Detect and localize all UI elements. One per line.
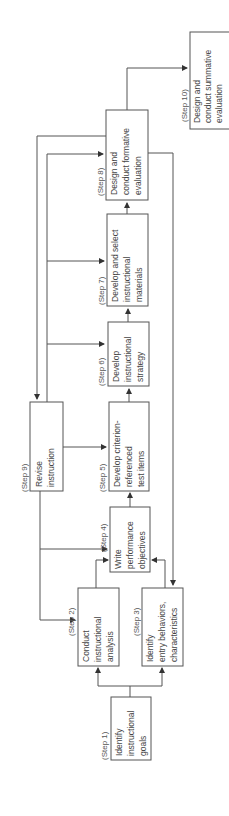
step-7-line-3: materials [134, 268, 144, 302]
step-8-line-1: Design and [109, 152, 119, 195]
step-1-line-1: Identify [114, 728, 124, 756]
step-1-line-2: instructional [126, 711, 136, 756]
step-4-line-2: performance [125, 521, 135, 569]
step-8-line-3: evaluation [133, 156, 143, 195]
step-2-label: (Step 2) [67, 607, 76, 636]
step-1-node: (Step 1) Identify instructional goals [100, 697, 151, 760]
step-6-label: (Step 6) [97, 357, 106, 386]
step-7-label: (Step 7) [97, 276, 106, 305]
step-5-line-3: test items [136, 451, 146, 487]
step-6-node: (Step 6) Develop instructional strategy [97, 322, 149, 386]
step-7-line-1: Develop and select [110, 229, 120, 302]
step-5-line-1: Develop criterion- [112, 420, 122, 487]
step-4-line-1: Write [113, 549, 123, 569]
step-10-line-2: conduct summative [203, 50, 213, 123]
step-10-node: (Step 10) Design and conduct summative e… [180, 32, 229, 129]
step-1-label: (Step 1) [100, 731, 109, 760]
step-3-label: (Step 3) [132, 607, 141, 636]
step-6-line-1: Develop [111, 351, 121, 382]
step-4-line-3: objectives [137, 531, 147, 569]
step-6-line-3: strategy [135, 351, 145, 382]
step-7-node: (Step 7) Develop and select instructiona… [97, 214, 148, 306]
step-5-label: (Step 5) [98, 463, 107, 492]
step-2-node: (Step 2) Conduct instructional analysis [67, 588, 119, 666]
step-4-label: (Step 4) [99, 523, 108, 552]
step-8-label: (Step 8) [96, 167, 105, 196]
step-10-line-1: Design and [192, 80, 202, 123]
step-9-node: (Step 9) Revise instruction [20, 402, 63, 492]
step-9-line-2: instruction [46, 448, 56, 487]
step-3-line-1: Identify [145, 634, 155, 662]
step-10-line-3: evaluation [214, 84, 224, 123]
step-8-line-2: conduct formative [121, 128, 131, 195]
step-2-line-3: analysis [105, 631, 115, 662]
step-9-label: (Step 9) [20, 463, 29, 492]
step-5-line-2: referenced [124, 446, 134, 487]
step-2-line-2: instructional [93, 617, 103, 662]
instructional-design-flowchart: (Step 10) Design and conduct summative e… [0, 0, 229, 816]
step-10-label: (Step 10) [180, 89, 189, 122]
step-2-line-1: Conduct [81, 630, 91, 662]
step-1-line-3: goals [138, 736, 148, 756]
step-8-node: (Step 8) Design and conduct formative ev… [96, 110, 148, 200]
step-6-line-2: instructional [123, 337, 133, 382]
step-9-line-1: Revise [34, 461, 44, 487]
step-3-node: (Step 3) Identify entry behaviors, chara… [132, 588, 183, 666]
step-4-node: (Step 4) Write performance objectives [99, 507, 150, 572]
step-7-line-2: instructional [122, 257, 132, 302]
step-3-line-3: characteristics [169, 608, 179, 662]
step-3-line-2: entry behaviors, [157, 602, 167, 662]
